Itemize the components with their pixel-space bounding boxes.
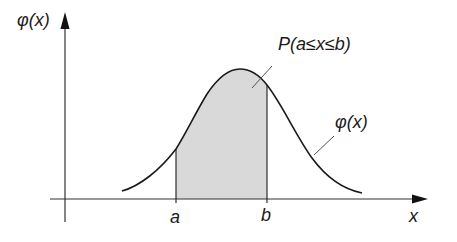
area-label: P(a≤x≤b) — [278, 34, 351, 55]
tick-label-b: b — [261, 205, 271, 226]
curve-label: φ(x) — [335, 112, 368, 133]
y-axis-label: φ(x) — [17, 10, 50, 31]
diagram-canvas — [0, 0, 457, 242]
curve-leader-line — [314, 136, 334, 155]
shaded-area-a-b — [176, 69, 267, 199]
normal-distribution-diagram: φ(x) P(a≤x≤b) φ(x) a b x — [0, 0, 457, 242]
tick-label-a: a — [170, 207, 180, 228]
x-axis-arrow-icon — [412, 195, 428, 204]
y-axis-arrow-icon — [61, 12, 70, 29]
x-axis-label: x — [409, 206, 418, 227]
